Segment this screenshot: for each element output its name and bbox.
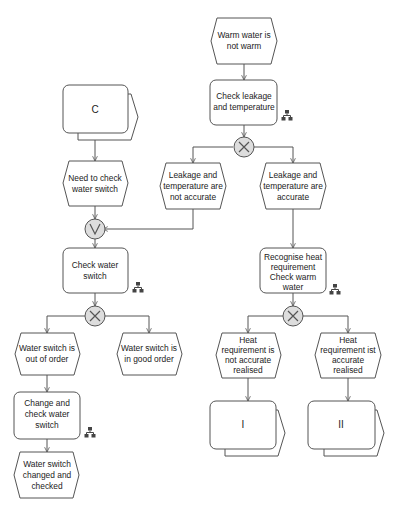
event-label: Water switch <box>23 459 71 469</box>
function-check-water-switch[interactable]: Check waterswitch <box>63 248 144 293</box>
event-heat-requirement-accurate[interactable]: Heatrequirement istaccuraterealised <box>315 333 381 378</box>
event-label: Need to check <box>68 173 122 183</box>
event-label: realised <box>333 365 363 375</box>
svg-text:Leakage andtemperature arenot: Leakage andtemperature arenot accurate <box>163 170 223 202</box>
function-label: check water <box>25 409 70 419</box>
event-label: Warm water is <box>217 30 270 40</box>
event-label: not warm <box>227 41 261 51</box>
svg-text:Water switch isout of order: Water switch isout of order <box>19 343 75 364</box>
process-interface-i[interactable]: I <box>210 401 285 456</box>
process-interface-c[interactable]: C <box>63 85 138 140</box>
event-label: temperature are <box>163 181 223 191</box>
function-check-leakage-temperature[interactable]: Check leakageand temperature <box>210 80 293 125</box>
function-label: and temperature <box>213 102 275 112</box>
event-label: Water switch is <box>121 343 177 353</box>
hierarchy-icon <box>282 110 293 121</box>
event-label: Water switch is <box>19 343 75 353</box>
function-label: Recognise heat <box>264 252 323 262</box>
event-label: Leakage and <box>269 170 318 180</box>
event-label: accurate <box>277 192 309 202</box>
event-label: out of order <box>26 354 69 364</box>
event-label: accurate <box>332 355 364 365</box>
function-recognise-heat-requirement[interactable]: Recognise heatrequirementCheck warmwater <box>260 248 341 295</box>
event-label: realised <box>233 365 263 375</box>
xor-gateway-1[interactable] <box>234 137 254 157</box>
event-label: requirement is <box>221 345 274 355</box>
function-label: Change and <box>24 398 70 408</box>
xor-gateway-3[interactable] <box>283 306 303 326</box>
event-label: in good order <box>124 354 174 364</box>
event-label: Leakage and <box>169 170 218 180</box>
svg-text:Need to checkwater switch: Need to checkwater switch <box>68 173 122 194</box>
event-label: checked <box>31 481 63 491</box>
epc-diagram: Warm water isnot warm Leakage andtempera… <box>0 0 401 514</box>
event-label: not accurate <box>225 355 271 365</box>
function-label: switch <box>83 271 107 281</box>
event-heat-requirement-not-accurate[interactable]: Heatrequirement isnot accuraterealised <box>216 333 281 378</box>
event-water-switch-changed-checked[interactable]: Water switchchanged andchecked <box>14 452 79 498</box>
event-water-switch-out-of-order[interactable]: Water switch isout of order <box>15 333 80 375</box>
or-gateway[interactable] <box>85 219 105 239</box>
hierarchy-icon <box>85 427 96 438</box>
event-label: requirement ist <box>320 345 376 355</box>
function-change-check-water-switch[interactable]: Change andcheck waterswitch <box>14 392 96 439</box>
event-label: Heat <box>339 335 357 345</box>
function-label: Check warm <box>270 272 317 282</box>
interface-label: C <box>91 104 98 115</box>
svg-text:Check leakageand temperature: Check leakageand temperature <box>213 91 275 112</box>
event-label: temperature are <box>263 181 323 191</box>
event-label: changed and <box>23 470 72 480</box>
function-label: switch <box>35 420 59 430</box>
event-warm-water-not-warm[interactable]: Warm water isnot warm <box>211 18 277 64</box>
event-water-switch-good-order[interactable]: Water switch isin good order <box>117 333 182 375</box>
svg-text:Water switch isin good order: Water switch isin good order <box>121 343 177 364</box>
function-label: Check water <box>72 260 119 270</box>
event-need-to-check-water-switch[interactable]: Need to checkwater switch <box>63 161 128 206</box>
interface-label: I <box>242 419 245 430</box>
event-label: not accurate <box>170 192 216 202</box>
event-leakage-not-accurate[interactable]: Leakage andtemperature arenot accurate <box>160 163 226 209</box>
hierarchy-icon <box>330 284 341 295</box>
function-label: Check leakage <box>216 91 272 101</box>
hierarchy-icon <box>133 282 144 293</box>
process-interface-ii[interactable]: II <box>308 401 384 456</box>
event-label: Heat <box>239 335 257 345</box>
event-leakage-accurate[interactable]: Leakage andtemperature areaccurate <box>260 163 326 209</box>
event-label: water switch <box>71 184 118 194</box>
function-label: water <box>282 282 304 292</box>
interface-label: II <box>338 419 344 430</box>
xor-gateway-2[interactable] <box>85 306 105 326</box>
function-label: requirement <box>271 262 316 272</box>
